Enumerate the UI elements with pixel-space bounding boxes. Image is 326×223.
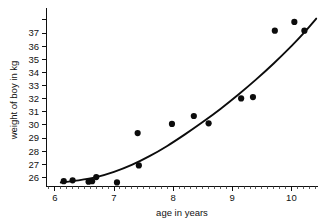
- y-axis-tick-labels: 262728293031323334353637: [28, 27, 39, 182]
- data-point: [93, 174, 99, 180]
- data-point: [206, 120, 212, 126]
- x-tick-label: 9: [230, 192, 235, 203]
- y-tick-label: 34: [28, 67, 39, 78]
- data-point: [191, 113, 197, 119]
- data-point: [169, 121, 175, 127]
- data-point: [301, 28, 307, 34]
- y-tick-label: 32: [28, 93, 39, 104]
- y-tick-label: 28: [28, 146, 39, 157]
- x-tick-label: 10: [286, 192, 297, 203]
- data-point: [250, 94, 256, 100]
- y-tick-label: 33: [28, 80, 39, 91]
- y-tick-label: 26: [28, 172, 39, 183]
- y-tick-label: 30: [28, 119, 39, 130]
- y-tick-label: 29: [28, 132, 39, 143]
- x-axis-tick-labels: 678910: [52, 192, 296, 203]
- y-axis-ticks: [42, 20, 46, 178]
- data-point: [291, 19, 297, 25]
- chart-container: 262728293031323334353637 678910 age in y…: [0, 0, 326, 223]
- data-point: [114, 179, 120, 185]
- y-tick-label: 27: [28, 159, 39, 170]
- data-point: [136, 162, 142, 168]
- y-axis-group: 262728293031323334353637: [28, 8, 46, 186]
- fitted-curve: [61, 19, 316, 183]
- data-point: [238, 95, 244, 101]
- y-tick-label: 35: [28, 54, 39, 65]
- data-point: [70, 177, 76, 183]
- y-tick-label: 37: [28, 27, 39, 38]
- x-axis-group: 678910: [46, 186, 318, 203]
- x-tick-label: 6: [52, 192, 57, 203]
- x-axis-title: age in years: [156, 207, 208, 218]
- scatter-plot: 262728293031323334353637 678910 age in y…: [0, 0, 326, 223]
- y-axis-title: weight of boy in kg: [8, 61, 19, 141]
- y-tick-label: 31: [28, 106, 39, 117]
- data-point: [272, 28, 278, 34]
- data-point: [135, 130, 141, 136]
- x-tick-label: 8: [170, 192, 175, 203]
- data-point-group: [61, 19, 308, 186]
- y-tick-label: 36: [28, 41, 39, 52]
- x-tick-label: 7: [111, 192, 116, 203]
- data-point: [61, 178, 67, 184]
